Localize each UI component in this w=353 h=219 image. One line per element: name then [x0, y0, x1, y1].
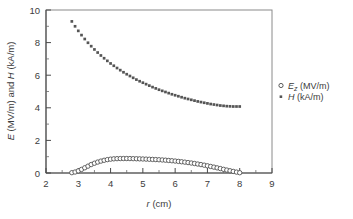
data-point-h	[112, 64, 115, 67]
data-point-h	[87, 41, 90, 44]
data-point-h	[132, 76, 135, 79]
data-point-h	[106, 60, 109, 63]
data-point-h	[145, 83, 148, 86]
data-point-h	[129, 75, 132, 78]
data-point-h	[235, 105, 238, 108]
data-point-h	[180, 96, 183, 99]
data-point-h	[238, 105, 241, 108]
x-axis-title: r (cm)	[147, 198, 172, 209]
data-point-h	[119, 69, 122, 72]
data-point-h	[116, 67, 119, 70]
data-point-h	[103, 57, 106, 60]
y-axis-title: E (MV/m) and H (kA/m)	[5, 42, 16, 141]
x-tick-label: 5	[140, 178, 145, 189]
data-point-h	[135, 78, 138, 81]
data-point-h	[193, 99, 196, 102]
data-point-h	[209, 103, 212, 106]
data-point-h	[148, 84, 151, 87]
x-tick-label: 3	[76, 178, 81, 189]
legend-label-h: H (kA/m)	[288, 92, 324, 102]
data-point-h	[90, 45, 93, 48]
figure-container: 23456789 0246810 r (cm) E (MV/m) and H (…	[0, 0, 353, 219]
data-point-h	[154, 87, 157, 90]
data-point-h	[83, 38, 86, 41]
data-point-h	[190, 98, 193, 101]
data-point-h	[167, 92, 170, 95]
y-tick-label: 6	[35, 70, 40, 81]
data-point-h	[77, 30, 80, 33]
data-point-h	[122, 71, 125, 74]
data-point-h	[171, 93, 174, 96]
data-point-h	[222, 104, 225, 107]
data-point-h	[74, 25, 77, 28]
data-point-h	[196, 100, 199, 103]
data-point-h	[177, 95, 180, 98]
data-point-h	[229, 105, 232, 108]
data-point-h	[203, 101, 206, 104]
chart-canvas: 23456789 0246810 r (cm) E (MV/m) and H (…	[0, 0, 353, 219]
data-point-h	[138, 80, 141, 83]
data-point-h	[80, 34, 83, 37]
data-point-h	[109, 62, 112, 65]
data-point-h	[96, 51, 99, 54]
data-point-h	[100, 54, 103, 57]
y-tick-label: 4	[35, 102, 40, 113]
data-point-h	[161, 90, 164, 93]
data-point-h	[225, 105, 228, 108]
data-point-h	[93, 48, 96, 51]
data-point-h	[206, 102, 209, 105]
x-tick-label: 9	[269, 178, 274, 189]
data-point-h	[125, 73, 128, 76]
y-tick-label: 2	[35, 135, 40, 146]
data-point-h	[187, 98, 190, 101]
data-point-h	[219, 104, 222, 107]
y-tick-label: 10	[29, 5, 40, 16]
data-point-h	[174, 94, 177, 97]
x-tick-label: 7	[205, 178, 210, 189]
data-point-h	[151, 86, 154, 89]
data-point-h	[232, 105, 235, 108]
data-point-h	[183, 97, 186, 100]
data-point-ez	[238, 171, 242, 175]
data-point-h	[213, 103, 216, 106]
legend-marker-h-icon	[280, 95, 283, 98]
data-point-h	[164, 91, 167, 94]
x-tick-label: 8	[237, 178, 242, 189]
data-point-h	[216, 104, 219, 107]
x-tick-label: 6	[172, 178, 177, 189]
data-point-h	[142, 81, 145, 84]
data-point-h	[70, 20, 73, 23]
y-tick-label: 8	[35, 37, 40, 48]
x-tick-label: 2	[43, 178, 48, 189]
x-tick-label: 4	[108, 178, 113, 189]
y-tick-label: 0	[35, 168, 40, 179]
data-point-h	[158, 88, 161, 91]
data-point-h	[200, 101, 203, 104]
